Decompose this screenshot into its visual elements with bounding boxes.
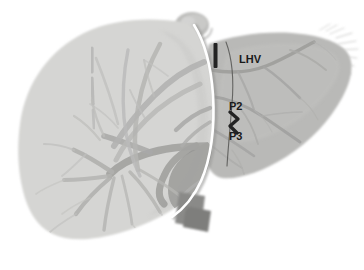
liver-anatomy-figure: LHV P2 P3 bbox=[0, 0, 364, 270]
label-p3: P3 bbox=[229, 131, 242, 142]
vertical-bar-marker bbox=[214, 43, 218, 68]
label-lhv: LHV bbox=[239, 54, 261, 65]
liver-illustration bbox=[0, 0, 364, 270]
left-hepatic-lobe bbox=[203, 24, 358, 178]
label-p2: P2 bbox=[229, 101, 242, 112]
